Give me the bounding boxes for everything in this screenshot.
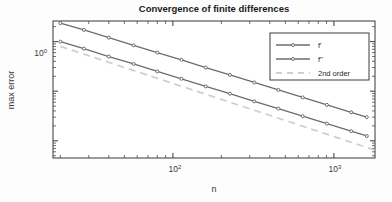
x-axis-label: n [211, 184, 216, 194]
legend: f'f''2nd order [270, 33, 369, 80]
data-point [156, 70, 159, 73]
data-point [253, 100, 256, 103]
y-axis-label: max error [6, 71, 16, 110]
data-point [180, 58, 183, 61]
data-point [107, 36, 110, 39]
legend-label-2: 2nd order [318, 69, 351, 78]
data-point [228, 92, 231, 95]
legend-label-1: f'' [318, 55, 324, 64]
data-point [365, 134, 368, 137]
data-point [350, 111, 353, 114]
data-point [132, 62, 135, 65]
data-point [301, 96, 304, 99]
data-point [228, 73, 231, 76]
data-point [325, 103, 328, 106]
data-point [325, 122, 328, 125]
data-point [132, 44, 135, 47]
data-point [82, 28, 85, 31]
data-point [59, 22, 62, 25]
data-point [59, 40, 62, 43]
data-point [82, 47, 85, 50]
legend-label-0: f' [318, 41, 322, 50]
data-point [156, 51, 159, 54]
legend-marker-1 [292, 58, 295, 61]
convergence-chart: Convergence of finite differences 102 10… [0, 0, 392, 202]
data-point [253, 81, 256, 84]
data-point [277, 88, 280, 91]
legend-marker-0 [292, 44, 295, 47]
data-point [301, 115, 304, 118]
data-point [180, 77, 183, 80]
data-point [277, 107, 280, 110]
data-point [204, 66, 207, 69]
data-point [107, 55, 110, 58]
figure-container: Convergence of finite differences 102 10… [0, 0, 392, 202]
data-point [204, 85, 207, 88]
data-point [365, 116, 368, 119]
data-point [350, 130, 353, 133]
chart-title: Convergence of finite differences [139, 3, 289, 14]
